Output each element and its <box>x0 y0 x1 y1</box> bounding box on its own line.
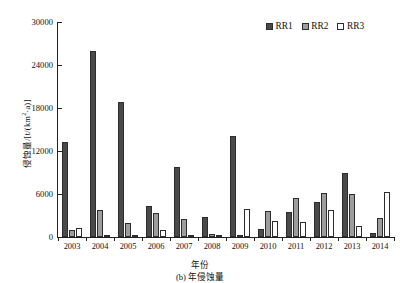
x-axis-tick <box>394 237 395 241</box>
bar-rr1-2007[interactable] <box>174 167 180 237</box>
y-axis-tick-mark <box>58 65 62 66</box>
x-axis-tick <box>226 237 227 241</box>
plot-area: 0600012000180002400030000200320042005200… <box>57 22 394 238</box>
bar-rr2-2014[interactable] <box>377 218 383 237</box>
x-axis-tick <box>86 237 87 241</box>
bar-rr3-2011[interactable] <box>300 222 306 237</box>
bar-rr3-2007[interactable] <box>188 235 194 237</box>
bar-group <box>90 51 110 237</box>
y-axis-tick-label: 6000 <box>36 190 58 199</box>
bar-rr3-2005[interactable] <box>132 235 138 237</box>
x-axis-tick-label: 2006 <box>148 242 165 251</box>
bar-group <box>286 198 306 237</box>
x-axis-tick <box>366 237 367 241</box>
bar-group <box>370 192 390 237</box>
x-axis-tick <box>58 237 59 241</box>
bar-rr2-2004[interactable] <box>97 210 103 237</box>
bar-rr2-2003[interactable] <box>69 230 75 237</box>
y-axis-title-exponent: 2 <box>21 113 27 116</box>
bar-rr3-2013[interactable] <box>356 226 362 237</box>
y-axis-tick-label: 30000 <box>32 18 58 27</box>
x-axis-tick <box>254 237 255 241</box>
bar-rr2-2005[interactable] <box>125 223 131 237</box>
bar-rr2-2008[interactable] <box>209 234 215 237</box>
x-axis-tick <box>170 237 171 241</box>
x-axis-tick <box>282 237 283 241</box>
bar-group <box>62 142 82 237</box>
y-axis-tick-label: 18000 <box>32 104 58 113</box>
x-axis-tick-label: 2011 <box>288 242 304 251</box>
bar-group <box>146 206 166 237</box>
bar-rr3-2006[interactable] <box>160 230 166 237</box>
bar-rr2-2010[interactable] <box>265 211 271 237</box>
bar-rr3-2004[interactable] <box>104 235 110 237</box>
x-axis-tick <box>338 237 339 241</box>
bar-group <box>202 217 222 237</box>
x-axis-title: 年份 <box>0 258 400 270</box>
y-axis-tick-mark <box>58 22 62 23</box>
y-axis-tick-label: 24000 <box>32 61 58 70</box>
bar-rr2-2007[interactable] <box>181 219 187 237</box>
x-axis-tick-label: 2005 <box>120 242 137 251</box>
bar-group <box>342 173 362 237</box>
x-axis-tick-label: 2003 <box>64 242 81 251</box>
bar-rr1-2005[interactable] <box>118 102 124 237</box>
x-axis-tick-label: 2007 <box>176 242 193 251</box>
bar-group <box>174 167 194 237</box>
y-axis-tick-mark <box>58 108 62 109</box>
bar-group <box>230 136 250 237</box>
bar-rr3-2014[interactable] <box>384 192 390 237</box>
x-axis-tick-label: 2009 <box>232 242 249 251</box>
bar-rr1-2004[interactable] <box>90 51 96 237</box>
bar-rr1-2009[interactable] <box>230 136 236 237</box>
bar-rr3-2008[interactable] <box>216 235 222 237</box>
bar-rr1-2013[interactable] <box>342 173 348 237</box>
bar-rr3-2012[interactable] <box>328 210 334 237</box>
x-axis-tick <box>198 237 199 241</box>
bar-rr2-2013[interactable] <box>349 194 355 237</box>
y-axis-title: 侵蚀量/[t/(km2·a)] <box>20 64 32 204</box>
x-axis-tick-label: 2012 <box>316 242 333 251</box>
chart-figure: 侵蚀量/[t/(km2·a)] RR1RR2RR3 06000120001800… <box>0 0 400 283</box>
bar-rr1-2010[interactable] <box>258 229 264 237</box>
bar-group <box>258 211 278 237</box>
bar-rr3-2009[interactable] <box>244 209 250 237</box>
y-axis-tick-label: 12000 <box>32 147 58 156</box>
bar-group <box>118 102 138 237</box>
bar-group <box>314 193 334 237</box>
bar-rr1-2008[interactable] <box>202 217 208 237</box>
bar-rr1-2012[interactable] <box>314 202 320 237</box>
x-axis-tick-label: 2008 <box>204 242 221 251</box>
x-axis-tick-label: 2010 <box>260 242 277 251</box>
bar-rr2-2012[interactable] <box>321 193 327 237</box>
bar-rr3-2010[interactable] <box>272 221 278 237</box>
bar-rr2-2006[interactable] <box>153 213 159 237</box>
x-axis-tick <box>114 237 115 241</box>
bar-rr1-2014[interactable] <box>370 233 376 237</box>
bar-rr3-2003[interactable] <box>76 228 82 237</box>
x-axis-tick <box>310 237 311 241</box>
bar-rr2-2011[interactable] <box>293 198 299 237</box>
x-axis-tick-label: 2013 <box>344 242 361 251</box>
bar-rr1-2011[interactable] <box>286 212 292 237</box>
x-axis-tick <box>142 237 143 241</box>
bar-rr1-2006[interactable] <box>146 206 152 237</box>
x-axis-tick-label: 2004 <box>92 242 109 251</box>
y-axis-title-tail: ·a)] <box>22 100 32 113</box>
y-axis-tick-label: 0 <box>49 233 58 242</box>
bar-rr2-2009[interactable] <box>237 235 243 237</box>
figure-caption: (b) 年侵蚀量 <box>0 270 400 282</box>
bar-rr1-2003[interactable] <box>62 142 68 237</box>
x-axis-tick-label: 2014 <box>372 242 389 251</box>
y-axis-title-main: 侵蚀量/[t/(km <box>22 116 32 169</box>
